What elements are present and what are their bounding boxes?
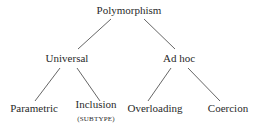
edge-polymorphism-adhoc	[144, 19, 175, 49]
node-inclusion-sublabel: (SUBTYPE)	[77, 115, 115, 123]
node-overloading: Overloading	[128, 102, 183, 114]
edge-adhoc-coercion	[188, 68, 220, 101]
node-inclusion: Inclusion	[76, 98, 117, 110]
node-universal: Universal	[46, 52, 89, 64]
edge-adhoc-overloading	[148, 68, 171, 101]
node-parametric: Parametric	[10, 102, 58, 114]
edge-polymorphism-universal	[78, 19, 111, 49]
polymorphism-tree-diagram: Polymorphism Universal Ad hoc Parametric…	[0, 0, 261, 132]
node-polymorphism: Polymorphism	[97, 4, 162, 16]
edge-universal-inclusion	[77, 68, 100, 101]
node-adhoc: Ad hoc	[163, 52, 195, 64]
node-coercion: Coercion	[208, 102, 248, 114]
edge-universal-parametric	[35, 68, 60, 101]
